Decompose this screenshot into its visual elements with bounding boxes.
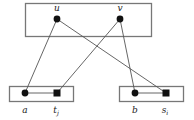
node-tj-square-icon — [54, 90, 61, 97]
nodes — [22, 16, 170, 97]
edges — [25, 19, 166, 93]
node-si-square-icon — [163, 90, 170, 97]
bipartite-diagram: uvatjbsi — [0, 0, 194, 120]
label-si: si — [162, 105, 169, 116]
node-b-circle-icon — [132, 90, 139, 97]
label-v: v — [117, 3, 122, 13]
node-u-circle-icon — [54, 16, 61, 23]
edge-u-si — [57, 19, 166, 93]
label-u: u — [54, 3, 60, 13]
edge-v-b — [120, 19, 135, 93]
box-top — [26, 4, 152, 37]
edge-u-a — [25, 19, 57, 93]
label-a: a — [22, 105, 27, 115]
box-bottom-left — [10, 87, 74, 102]
box-bottom-right — [120, 87, 184, 102]
edge-v-tj — [57, 19, 120, 93]
label-b: b — [132, 105, 138, 115]
label-tj: tj — [53, 105, 59, 117]
node-a-circle-icon — [22, 90, 29, 97]
node-v-circle-icon — [117, 16, 124, 23]
labels: uvatjbsi — [22, 3, 168, 117]
